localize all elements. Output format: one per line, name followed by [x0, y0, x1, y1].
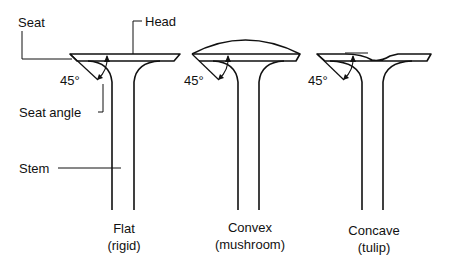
label-seat: Seat	[18, 15, 45, 30]
caption-concave-sub: (tulip)	[348, 239, 399, 256]
head-leader	[133, 21, 142, 54]
label-stem: Stem	[19, 161, 49, 176]
valve-convex	[192, 40, 300, 210]
angle-label-concave: 45°	[308, 73, 328, 88]
valve-concave	[317, 53, 431, 210]
angle-label-flat: 45°	[60, 73, 80, 88]
seat-angle-leader	[98, 84, 103, 112]
caption-convex: Convex (mushroom)	[215, 219, 285, 253]
caption-convex-sub: (mushroom)	[215, 236, 285, 253]
label-head: Head	[145, 14, 176, 29]
seat-leader	[22, 31, 72, 59]
label-seat-angle: Seat angle	[19, 105, 81, 120]
caption-concave: Concave (tulip)	[348, 222, 399, 256]
caption-flat: Flat (rigid)	[107, 220, 140, 254]
caption-flat-name: Flat	[107, 220, 140, 237]
valve-flat	[70, 54, 180, 210]
caption-flat-sub: (rigid)	[107, 237, 140, 254]
angle-label-convex: 45°	[184, 73, 204, 88]
caption-convex-name: Convex	[215, 219, 285, 236]
caption-concave-name: Concave	[348, 222, 399, 239]
